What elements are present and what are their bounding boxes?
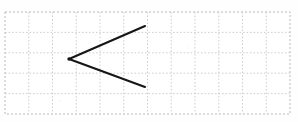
paper-speck [15, 71, 16, 72]
paper-speck [224, 94, 225, 95]
worksheet-canvas [0, 0, 298, 122]
angle-lower-ray [69, 59, 145, 87]
angle-vertex-point [67, 57, 70, 60]
grid-vertical-lines [29, 12, 267, 114]
paper-speck [59, 100, 60, 101]
paper-speck [187, 47, 188, 48]
paper-speck [29, 21, 30, 22]
angle-figure [67, 26, 145, 87]
paper-speck [149, 107, 150, 108]
angle-upper-ray [69, 26, 145, 59]
paper-speck [95, 34, 96, 35]
paper-speck [261, 29, 262, 30]
geometry-figure-svg [0, 0, 298, 122]
